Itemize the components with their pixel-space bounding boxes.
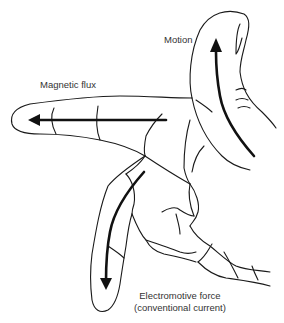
magnetic-flux-arrowhead	[28, 114, 40, 126]
motion-arrow	[210, 38, 254, 156]
index-finger	[12, 96, 192, 156]
motion-arrowhead	[210, 38, 222, 52]
electromotive-force-label-line2: (conventional current)	[134, 302, 226, 314]
thumb	[190, 11, 276, 170]
motion-label: Motion	[164, 34, 193, 46]
palm	[126, 120, 270, 286]
electromotive-force-arrowhead	[100, 278, 112, 290]
electromotive-force-label: Electromotive force (conventional curren…	[134, 290, 226, 314]
electromotive-force-label-line1: Electromotive force	[134, 290, 226, 302]
magnetic-flux-label: Magnetic flux	[40, 79, 96, 91]
hand-diagram	[0, 0, 284, 323]
